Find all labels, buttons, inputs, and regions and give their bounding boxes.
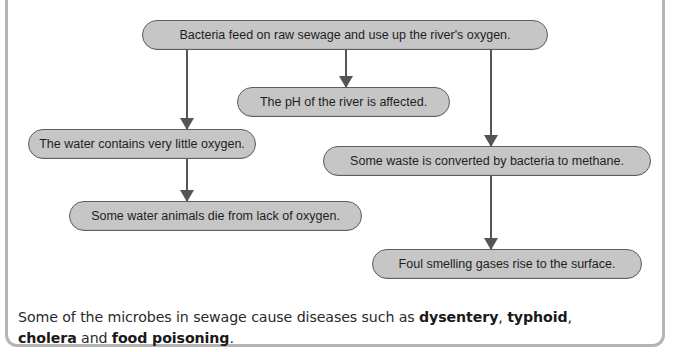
caption-text: and [77, 330, 112, 346]
caption-separator: , [568, 309, 572, 325]
term-cholera: cholera [18, 330, 77, 346]
node-bacteria-feed: Bacteria feed on raw sewage and use up t… [142, 20, 548, 50]
term-typhoid: typhoid [507, 309, 567, 325]
caption-paragraph: Some of the microbes in sewage cause dis… [18, 307, 658, 349]
node-methane-text: Some waste is converted by bacteria to m… [350, 154, 624, 168]
node-animals-die: Some water animals die from lack of oxyg… [69, 201, 362, 231]
node-little-oxygen: The water contains very little oxygen. [28, 129, 256, 159]
node-methane: Some waste is converted by bacteria to m… [323, 146, 651, 176]
node-animals-die-text: Some water animals die from lack of oxyg… [91, 209, 340, 223]
node-ph-affected-text: The pH of the river is affected. [260, 95, 427, 109]
caption-text: Some of the microbes in sewage cause dis… [18, 309, 419, 325]
arrow-down-icon [490, 50, 492, 146]
arrow-down-icon [186, 159, 188, 201]
node-foul-gases: Foul smelling gases rise to the surface. [372, 249, 642, 279]
arrow-down-icon [345, 50, 347, 87]
term-food-poisoning: food poisoning [112, 330, 230, 346]
caption-separator: , [498, 309, 507, 325]
node-little-oxygen-text: The water contains very little oxygen. [39, 137, 245, 151]
node-bacteria-feed-text: Bacteria feed on raw sewage and use up t… [179, 28, 510, 42]
caption-period: . [229, 330, 233, 346]
arrow-down-icon [186, 50, 188, 129]
node-foul-gases-text: Foul smelling gases rise to the surface. [399, 257, 616, 271]
node-ph-affected: The pH of the river is affected. [237, 87, 450, 117]
term-dysentery: dysentery [419, 309, 498, 325]
arrow-down-icon [490, 176, 492, 249]
